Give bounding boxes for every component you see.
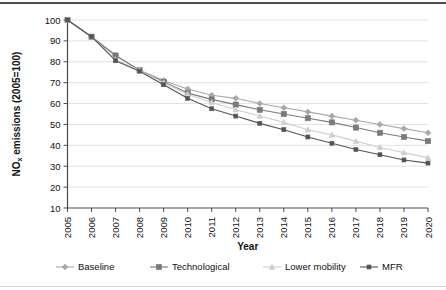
legend-marker-0	[62, 264, 68, 270]
y-tick-label-50: 50	[50, 119, 61, 130]
x-tick-label-2012: 2012	[230, 217, 241, 238]
data-point-3-2013	[258, 121, 262, 125]
data-point-1-2019	[401, 134, 406, 139]
x-tick-label-2011: 2011	[206, 217, 217, 237]
x-axis-title: Year	[237, 241, 258, 252]
data-point-0-2017	[353, 117, 359, 123]
nox-emissions-line-chart: 102030405060708090100 200520062007200820…	[0, 0, 446, 290]
x-tick-label-2014: 2014	[278, 217, 289, 238]
axis-lines	[68, 20, 429, 208]
chart-figure: 102030405060708090100 200520062007200820…	[0, 0, 446, 290]
x-tick-label-2010: 2010	[182, 217, 193, 238]
data-point-3-2018	[378, 153, 382, 157]
x-tick-label-2019: 2019	[398, 217, 409, 238]
series-baseline	[65, 17, 432, 136]
legend-item-lower-mobility[interactable]: Lower mobility	[263, 261, 346, 272]
x-tick-label-2018: 2018	[374, 217, 385, 238]
y-tick-label-60: 60	[50, 98, 61, 109]
series-mfr	[66, 18, 431, 165]
x-tick-label-2007: 2007	[110, 217, 121, 238]
data-point-1-2013	[257, 107, 262, 112]
data-point-1-2014	[281, 111, 286, 116]
series-line-0	[68, 20, 429, 133]
x-tick-label-2015: 2015	[302, 217, 313, 238]
legend-item-baseline[interactable]: Baseline	[56, 261, 114, 272]
svg-text:NOx emissions (2005=100): NOx emissions (2005=100)	[11, 52, 23, 177]
y-tick-label-30: 30	[50, 161, 61, 172]
y-tick-label-100: 100	[45, 15, 61, 26]
data-point-3-2009	[162, 83, 166, 87]
data-point-0-2012	[233, 95, 239, 101]
y-tick-label-80: 80	[50, 56, 61, 67]
data-point-3-2020	[426, 161, 430, 165]
y-tick-label-20: 20	[50, 182, 61, 193]
series-line-3	[68, 20, 429, 163]
x-tick-label-2013: 2013	[254, 217, 265, 238]
data-point-3-2019	[402, 158, 406, 162]
data-point-1-2020	[425, 139, 430, 144]
legend-label-0: Baseline	[78, 261, 114, 272]
x-axis-ticks: 2005200620072008200920102011201220132014…	[62, 208, 434, 238]
x-tick-label-2009: 2009	[158, 217, 169, 238]
legend-marker-3	[367, 265, 371, 269]
data-point-3-2012	[234, 114, 238, 118]
data-point-3-2011	[210, 107, 214, 111]
data-point-3-2008	[138, 69, 142, 73]
data-point-3-2006	[90, 35, 94, 39]
data-point-3-2007	[114, 59, 118, 63]
chart-legend: BaselineTechnologicalLower mobilityMFR	[56, 261, 403, 272]
x-tick-label-2020: 2020	[423, 217, 434, 238]
data-point-0-2014	[281, 105, 287, 111]
x-tick-label-2006: 2006	[86, 217, 97, 238]
gridlines	[68, 20, 429, 187]
legend-label-2: Lower mobility	[285, 261, 346, 272]
x-tick-label-2017: 2017	[350, 217, 361, 238]
data-point-0-2015	[305, 109, 311, 115]
x-tick-label-2005: 2005	[62, 217, 73, 238]
y-tick-label-40: 40	[50, 140, 61, 151]
legend-label-1: Technological	[172, 261, 230, 272]
legend-label-3: MFR	[382, 261, 403, 272]
data-point-0-2019	[401, 126, 407, 132]
data-point-3-2015	[306, 135, 310, 139]
data-point-0-2020	[425, 130, 431, 136]
data-point-1-2016	[329, 120, 334, 125]
x-tick-label-2008: 2008	[134, 217, 145, 238]
series-lower-mobility	[65, 17, 431, 160]
data-point-0-2016	[329, 113, 335, 119]
data-point-3-2014	[282, 128, 286, 132]
y-tick-label-70: 70	[50, 77, 61, 88]
y-axis-ticks: 102030405060708090100	[45, 15, 68, 214]
data-series-group	[65, 17, 432, 165]
y-tick-label-90: 90	[50, 35, 61, 46]
data-point-1-2017	[353, 125, 358, 130]
data-point-0-2013	[257, 101, 263, 107]
x-tick-label-2016: 2016	[326, 217, 337, 238]
data-point-1-2015	[305, 116, 310, 121]
data-point-3-2005	[66, 18, 70, 22]
data-point-1-2018	[377, 130, 382, 135]
y-tick-label-10: 10	[50, 203, 61, 214]
data-point-3-2017	[354, 148, 358, 152]
legend-marker-1	[156, 264, 161, 269]
legend-item-technological[interactable]: Technological	[150, 261, 230, 272]
data-point-3-2010	[186, 96, 190, 100]
y-axis-title: NOx emissions (2005=100)	[11, 52, 23, 177]
legend-item-mfr[interactable]: MFR	[360, 261, 403, 272]
data-point-3-2016	[330, 141, 334, 145]
data-point-0-2018	[377, 121, 383, 127]
